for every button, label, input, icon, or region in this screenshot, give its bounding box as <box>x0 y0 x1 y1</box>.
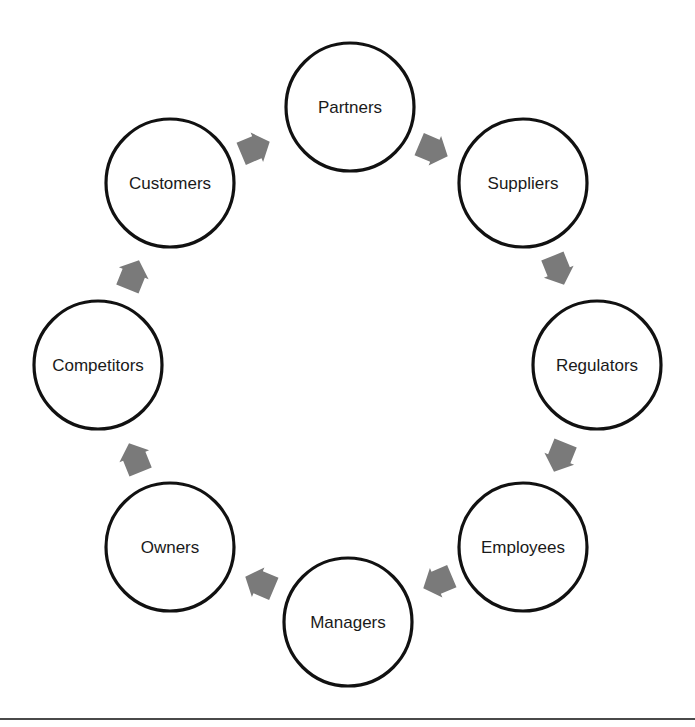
arrow-icon-regulators-to-employees <box>539 437 580 478</box>
node-employees: Employees <box>459 483 587 611</box>
node-suppliers: Suppliers <box>459 119 587 247</box>
arrow-icon-partners-to-suppliers <box>413 129 454 171</box>
arrow-icon-owners-to-competitors <box>114 437 155 478</box>
node-label: Managers <box>310 613 386 632</box>
node-regulators: Regulators <box>533 301 661 429</box>
node-owners: Owners <box>106 483 234 611</box>
stakeholder-cycle-diagram: Partners Suppliers Regulators Employees … <box>0 0 695 727</box>
node-competitors: Competitors <box>34 301 162 429</box>
node-label: Owners <box>141 538 200 557</box>
node-label: Regulators <box>556 356 638 375</box>
node-label: Competitors <box>52 356 144 375</box>
nodes-layer: Partners Suppliers Regulators Employees … <box>34 43 661 686</box>
arrow-icon-managers-to-owners <box>239 562 280 604</box>
arrow-icon-suppliers-to-regulators <box>538 250 579 291</box>
node-label: Suppliers <box>488 174 559 193</box>
node-label: Employees <box>481 538 565 557</box>
node-managers: Managers <box>284 558 412 686</box>
node-customers: Customers <box>106 119 234 247</box>
arrow-icon-competitors-to-customers <box>113 254 154 295</box>
arrow-icon-customers-to-partners <box>235 127 276 169</box>
arrow-icon-employees-to-managers <box>417 561 458 603</box>
node-label: Partners <box>318 98 382 117</box>
bottom-divider-line <box>0 718 695 720</box>
node-label: Customers <box>129 174 211 193</box>
node-partners: Partners <box>286 43 414 171</box>
